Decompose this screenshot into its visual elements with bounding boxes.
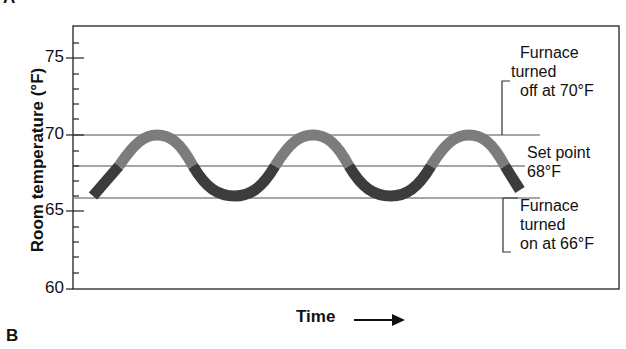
x-axis-label: Time xyxy=(296,307,335,327)
time-arrowhead xyxy=(392,314,405,326)
bracket-on xyxy=(503,198,511,252)
tick-60: 60 xyxy=(28,278,64,298)
annotation-furnace-on: Furnace turned on at 66°F xyxy=(520,196,594,253)
annotation-furnace-off: Furnace turned off at 70°F xyxy=(520,43,594,100)
tick-75: 75 xyxy=(28,47,64,67)
annotation-set-point: Set point 68°F xyxy=(527,143,590,181)
bracket-off xyxy=(502,81,510,135)
tick-65: 65 xyxy=(28,200,64,220)
tick-70: 70 xyxy=(28,124,64,144)
y-axis-label: Room temperature (°F) xyxy=(28,60,48,260)
